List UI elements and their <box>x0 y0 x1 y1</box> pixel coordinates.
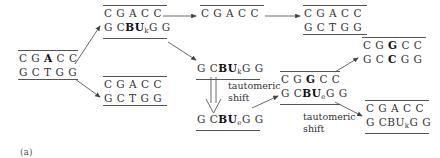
arrow-mispair-to-mutant <box>335 58 358 72</box>
duplex-reverted: C G A C C G CBUkG G <box>365 100 432 134</box>
bottom-strand: G CBUkG G <box>103 20 172 38</box>
strand-bu-enol: G CBUeG G <box>196 112 265 131</box>
bottom-strand: G C T G G <box>103 91 167 105</box>
rule <box>280 104 340 105</box>
rule <box>365 133 429 134</box>
duplex-start: C G A C C G C T G G <box>18 50 79 80</box>
top-strand: C G A C C <box>103 77 167 91</box>
bottom-strand: G CBUkG G <box>196 61 265 79</box>
top-strand: C G A C C <box>103 6 172 20</box>
top-strand: C G G C C <box>280 72 349 86</box>
top-strand: C G A C C <box>303 6 367 20</box>
tautomeric-shift-double-arrow <box>206 77 221 113</box>
bottom-strand: G C C G G <box>362 52 426 66</box>
top-strand: C G A C C <box>18 51 79 65</box>
rule <box>303 34 367 35</box>
duplex-normal-copy-2: C G A C C G C T G G <box>303 5 367 35</box>
rule <box>103 38 167 39</box>
rule <box>103 105 167 106</box>
arrow-start-to-normal <box>75 79 100 97</box>
top-strand: C G A C C <box>200 6 264 20</box>
strand-top-only: C G A C C <box>200 5 264 20</box>
strand-bu-keto: G CBUkG G <box>196 61 265 80</box>
label-line: tautomeric <box>303 111 356 123</box>
duplex-bu-incorporated: C G A C C G CBUkG G <box>103 5 172 39</box>
bromouracil-mutagenesis-diagram: C G A C C G C T G G C G A C C G CBUkG G … <box>0 0 440 158</box>
label-line: shift <box>303 123 356 135</box>
rule <box>196 130 260 131</box>
bottom-strand: G C T G G <box>303 20 367 34</box>
rule <box>18 79 78 80</box>
figure-label: (a) <box>20 146 32 158</box>
arrow-bu-to-keto <box>168 42 196 60</box>
label-line: tautomeric <box>228 80 281 92</box>
bottom-strand: G CBUeG G <box>280 86 349 104</box>
bottom-strand: G CBUkG G <box>365 115 432 133</box>
bottom-strand: G C T G G <box>18 65 79 79</box>
arrow-start-to-bu <box>75 26 100 64</box>
duplex-mispair: C G G C C G CBUeG G <box>280 71 349 105</box>
bottom-strand: G CBUeG G <box>196 112 265 130</box>
duplex-mutant: C G G C C G C C G G <box>362 37 426 66</box>
tautomeric-shift-label-2: tautomeric shift <box>303 111 356 135</box>
top-strand: C G G C C <box>362 38 426 52</box>
label-line: shift <box>228 92 281 104</box>
duplex-normal-copy-1: C G A C C G C T G G <box>103 76 167 106</box>
tautomeric-shift-label-1: tautomeric shift <box>228 80 281 104</box>
top-strand: C G A C C <box>365 101 432 115</box>
